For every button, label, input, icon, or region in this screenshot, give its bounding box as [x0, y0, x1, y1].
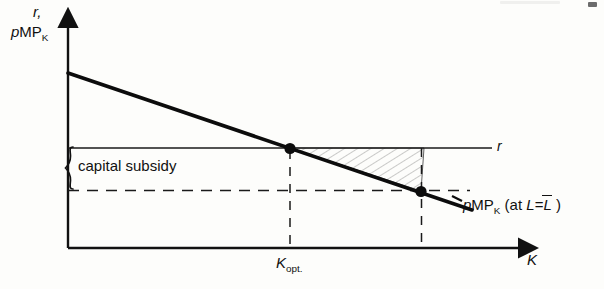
curve-label-equals: = [535, 196, 544, 213]
curve-label-l: L [526, 196, 534, 213]
curve-label-mp: MP [471, 196, 494, 213]
scan-artifact-mark [588, 2, 597, 7]
demand-curve-label: pMPK (at L=L ) [463, 197, 561, 216]
scan-artifact-smudge [500, 1, 560, 4]
curve-label-lbar: L [543, 197, 551, 212]
y-axis-label-mp: MP [19, 23, 42, 40]
y-axis-label-line1: r, [33, 4, 41, 19]
equilibrium-point-r [284, 143, 295, 154]
y-axis-label-k-subscript: K [42, 32, 49, 43]
equilibrium-point-subsidised [415, 186, 426, 197]
kopt-main: K [276, 254, 286, 271]
capital-subsidy-label: capital subsidy [78, 158, 176, 173]
x-axis-label: K [527, 252, 537, 267]
curve-label-paren-open: (at [505, 196, 527, 213]
y-axis-label-r: r, [33, 3, 41, 20]
curve-label-leader [452, 196, 462, 201]
curve-label-paren-close: ) [556, 196, 561, 213]
rental-rate-label: r [497, 139, 502, 153]
figure-canvas: r, pMPK K Kopt. r pMPK (at L=L ) capital… [0, 0, 604, 289]
demand-curve [68, 73, 472, 210]
diagram-svg [0, 0, 604, 289]
kopt-subscript: opt. [286, 263, 302, 274]
subsidy-brace-icon [66, 147, 74, 189]
y-axis-label-line2: pMPK [11, 24, 48, 43]
x-tick-label-kopt: Kopt. [276, 255, 303, 274]
